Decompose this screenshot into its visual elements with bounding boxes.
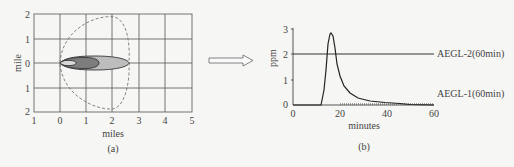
- y-tick: 2: [25, 106, 30, 117]
- x-tick: 2: [110, 115, 115, 126]
- aegl2-label: AEGL-2(60min): [437, 48, 504, 60]
- x-tick: 60: [429, 108, 439, 119]
- x-tick: 3: [137, 115, 142, 126]
- x-tick: 5: [190, 115, 195, 126]
- y-tick: 1: [25, 34, 30, 45]
- y-tick: 2: [283, 49, 288, 60]
- y-axis-label: mile: [12, 54, 23, 72]
- y-tick: 1: [25, 83, 30, 94]
- panel-label-a: (a): [107, 143, 118, 155]
- plume-map-chart: 1 0 1 2 3 4 5 2 1 0 1 2 miles mile (a): [12, 9, 195, 155]
- y-tick: 1: [283, 75, 288, 86]
- aegl1-label: AEGL-1(60min): [437, 88, 504, 100]
- x-tick: 0: [291, 108, 296, 119]
- y-tick: 2: [25, 9, 30, 20]
- x-tick: 1: [32, 115, 37, 126]
- figure: 1 0 1 2 3 4 5 2 1 0 1 2 miles mile (a): [0, 0, 514, 167]
- x-tick: 40: [382, 108, 392, 119]
- concentration-chart: 3 2 1 0 0 20 40 60 ppm minutes AEGL-2(60…: [267, 24, 504, 153]
- x-tick: 4: [163, 115, 168, 126]
- y-tick: 0: [283, 99, 288, 110]
- y-axis-label: ppm: [267, 49, 278, 67]
- inner-plume: [60, 60, 76, 65]
- x-tick: 20: [335, 108, 345, 119]
- y-tick: 0: [25, 58, 30, 69]
- y-tick: 3: [283, 24, 288, 35]
- axes: [291, 28, 434, 105]
- x-tick: 1: [84, 115, 89, 126]
- x-axis-label: miles: [102, 128, 124, 139]
- x-tick: 0: [58, 115, 63, 126]
- concentration-curve: [293, 33, 434, 105]
- x-axis-label: minutes: [348, 120, 380, 131]
- panel-label-b: (b): [358, 141, 370, 153]
- right-arrow-icon: [209, 55, 253, 66]
